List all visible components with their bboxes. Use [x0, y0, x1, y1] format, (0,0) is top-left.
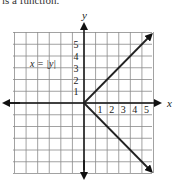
x-tick-label: 5 [144, 104, 149, 115]
x-axis-label: x [166, 97, 172, 109]
y-tick-label: 1 [74, 86, 79, 97]
curve-branch [84, 35, 152, 104]
curve-branch [84, 103, 152, 172]
x-tick-label: 3 [121, 104, 126, 115]
axes [4, 24, 160, 178]
y-tick-label: 5 [74, 39, 79, 50]
equation-label: x = |y| [29, 58, 56, 69]
y-tick-label: 4 [74, 51, 79, 62]
x-tick-label: 4 [132, 104, 137, 115]
y-tick-label: 3 [74, 63, 79, 74]
x-tick-label: 1 [98, 104, 103, 115]
graph-plot: 1234512345xyx = |y| [0, 0, 174, 180]
y-axis-label: y [81, 9, 87, 21]
y-tick-label: 2 [74, 75, 79, 86]
x-tick-label: 2 [109, 104, 114, 115]
labels: 1234512345xyx = |y| [29, 9, 172, 115]
